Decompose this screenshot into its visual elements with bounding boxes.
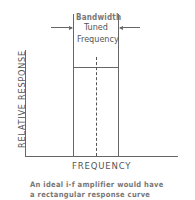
tuned-frequency-label: Frequency <box>77 34 119 44</box>
x-axis-label: FREQUENCY <box>72 160 131 171</box>
arrow-left-icon <box>119 26 123 30</box>
bandwidth-left-line <box>73 14 74 156</box>
bandwidth-label: Bandwidth <box>76 13 121 22</box>
y-axis-label: RELATIVE RESPONSE <box>17 49 27 149</box>
tuned-label: Tuned <box>84 22 108 32</box>
caption-line-2: a rectangular response curve <box>30 190 150 199</box>
caption-line-1: An ideal i-f amplifier would have <box>30 180 164 189</box>
arrow-right-icon <box>69 26 73 30</box>
bandwidth-arrow-right-shaft <box>120 27 140 28</box>
tuned-frequency-line <box>96 57 97 156</box>
x-axis <box>25 156 178 157</box>
